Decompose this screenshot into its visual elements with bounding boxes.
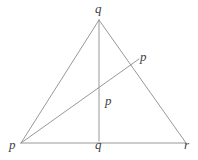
segment-group: [21, 20, 186, 143]
triangle-diagram-figure: q p p p q r: [0, 0, 198, 160]
diagram-canvas: [0, 0, 198, 160]
label-apex-q: q: [95, 2, 102, 15]
label-bottom-right-r: r: [184, 138, 189, 151]
cevian-p-to-side-line: [21, 59, 139, 143]
label-bottom-middle-q: q: [95, 138, 102, 151]
side-p-q-line: [21, 20, 99, 143]
label-middle-p: p: [105, 94, 112, 107]
side-q-r-line: [99, 20, 186, 143]
label-upper-right-p: p: [140, 50, 147, 63]
label-bottom-left-p: p: [9, 138, 16, 151]
